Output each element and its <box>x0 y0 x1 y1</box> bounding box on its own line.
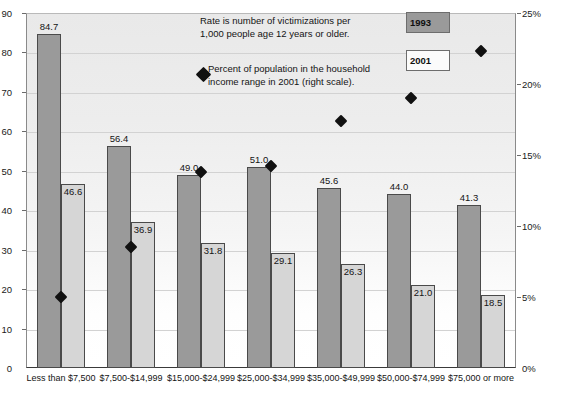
bar-value-label-1993: 41.3 <box>449 193 489 203</box>
tick-mark <box>22 131 26 132</box>
tick-mark <box>22 210 26 211</box>
y-axis-left-tick: 70 <box>1 88 12 98</box>
y-axis-right-tick: 10% <box>522 222 541 232</box>
tick-mark <box>517 155 521 156</box>
bar-1993 <box>37 34 61 368</box>
percent-note-line2: income range in 2001 (right scale). <box>208 75 370 88</box>
bar-value-label-1993: 56.4 <box>99 134 139 144</box>
bar-2001 <box>201 243 225 368</box>
tick-mark <box>517 297 521 298</box>
y-axis-left-tick: 90 <box>1 9 12 19</box>
y-axis-left-tick: 0 <box>7 364 12 374</box>
bar-value-label-2001: 46.6 <box>53 187 93 197</box>
bar-2001 <box>271 253 295 368</box>
bar-value-label-2001: 36.9 <box>123 225 163 235</box>
tick-mark <box>517 84 521 85</box>
chart-root: 90 80 70 60 50 40 30 20 10 0 25% 20% 15%… <box>0 0 566 401</box>
y-axis-right-tick: 20% <box>522 80 541 90</box>
x-axis-category-label: $75,000 or more <box>436 374 526 384</box>
y-axis-right-tick: 15% <box>522 151 541 161</box>
tick-mark <box>517 13 521 14</box>
y-axis-left-tick: 50 <box>1 167 12 177</box>
tick-mark <box>517 226 521 227</box>
bar-2001 <box>61 184 85 368</box>
tick-mark <box>22 250 26 251</box>
bar-1993 <box>457 205 481 368</box>
gridline <box>27 211 515 212</box>
rate-note-line1: Rate is number of victimizations per <box>200 14 350 27</box>
bar-value-label-2001: 21.0 <box>403 288 443 298</box>
bar-value-label-2001: 29.1 <box>263 256 303 266</box>
tick-mark <box>22 171 26 172</box>
legend-swatch-2001: 2001 <box>406 50 450 71</box>
bar-1993 <box>107 146 131 368</box>
tick-mark <box>22 92 26 93</box>
bar-value-label-1993: 45.6 <box>309 176 349 186</box>
y-axis-left-tick: 20 <box>1 285 12 295</box>
y-axis-left-tick: 60 <box>1 127 12 137</box>
gridline <box>27 93 515 94</box>
y-axis-left-tick: 10 <box>1 325 12 335</box>
tick-mark <box>22 13 26 14</box>
bar-value-label-2001: 26.3 <box>333 267 373 277</box>
tick-mark <box>22 289 26 290</box>
bar-1993 <box>387 194 411 368</box>
percent-note-line1: Percent of population in the household <box>208 62 370 75</box>
bar-1993 <box>317 188 341 368</box>
percent-note: Percent of population in the household i… <box>208 62 370 88</box>
rate-note: Rate is number of victimizations per 1,0… <box>200 14 350 40</box>
bar-value-label-2001: 31.8 <box>193 246 233 256</box>
y-axis-left-tick: 80 <box>1 48 12 58</box>
bar-value-label-1993: 44.0 <box>379 182 419 192</box>
y-axis-right-tick: 25% <box>522 9 541 19</box>
gridline <box>27 251 515 252</box>
y-axis-left-tick: 30 <box>1 246 12 256</box>
y-axis-left-tick: 40 <box>1 206 12 216</box>
bar-2001 <box>341 264 365 368</box>
bar-value-label-2001: 18.5 <box>473 298 513 308</box>
bar-value-label-1993: 84.7 <box>29 22 69 32</box>
legend-swatch-1993: 1993 <box>406 12 450 33</box>
bar-1993 <box>247 167 271 368</box>
tick-mark <box>22 329 26 330</box>
y-axis-right-tick: 0% <box>522 364 536 374</box>
bar-1993 <box>177 175 201 368</box>
rate-note-line2: 1,000 people age 12 years or older. <box>200 27 350 40</box>
tick-mark <box>22 52 26 53</box>
y-axis-right-tick: 5% <box>522 293 536 303</box>
